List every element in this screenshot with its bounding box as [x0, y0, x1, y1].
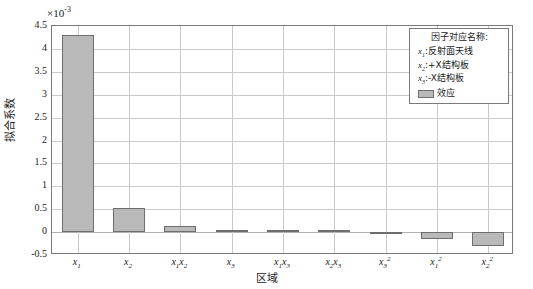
y-axis-exponent: ×10-3 [47, 6, 71, 19]
bar [267, 230, 299, 232]
y-tick-label: 4 [3, 43, 47, 53]
legend-series-label: 效应 [437, 88, 455, 100]
gridline-vertical [232, 26, 233, 253]
gridline-horizontal [52, 141, 512, 142]
legend-entry: x3:-X结构板 [415, 73, 504, 87]
bar [62, 35, 94, 232]
gridline-horizontal [52, 163, 512, 164]
gridline-vertical [386, 26, 387, 253]
y-exponent-power: -3 [64, 5, 71, 14]
gridline-vertical [283, 26, 284, 253]
y-tick-label: 0.5 [3, 203, 47, 213]
bar [318, 230, 350, 232]
gridline-vertical [180, 26, 181, 253]
y-tick-label: 1 [3, 180, 47, 190]
bar [421, 232, 453, 238]
legend-entry-list: x1:反射面天线x2:+X结构板x3:-X结构板 [415, 46, 504, 87]
legend-entry: x2:+X结构板 [415, 60, 504, 74]
bar [164, 226, 196, 232]
y-exponent-base: ×10 [47, 7, 64, 19]
legend-title: 因子对应名称: [415, 32, 504, 44]
legend-series-row: 效应 [415, 88, 504, 100]
x-axis-title: 区域 [0, 269, 533, 285]
legend-color-swatch [418, 90, 434, 98]
bar [472, 232, 504, 246]
legend-entry: x1:反射面天线 [415, 46, 504, 60]
y-axis-title: 拟合系数 [1, 75, 17, 165]
bar [216, 230, 248, 232]
gridline-horizontal [52, 186, 512, 187]
figure-container: ×10-3 4.543.532.521.510.50-0.5 拟合系数 x1x2… [0, 0, 533, 289]
y-tick-label: 0 [3, 226, 47, 236]
legend-box: 因子对应名称: x1:反射面天线x2:+X结构板x3:-X结构板 效应 [409, 28, 509, 104]
y-tick-label: 4.5 [3, 20, 47, 30]
bar [370, 232, 402, 234]
bar [113, 208, 145, 232]
gridline-vertical [334, 26, 335, 253]
gridline-horizontal [52, 118, 512, 119]
